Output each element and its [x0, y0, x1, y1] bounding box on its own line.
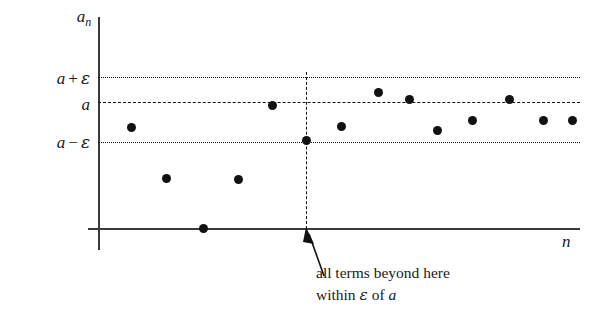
upper-bound-label-a: a: [57, 69, 66, 88]
annotation-caption-line2: within ε of a: [316, 284, 450, 306]
annotation-caption-of: of: [368, 286, 389, 303]
threshold-line: [306, 72, 307, 229]
data-point: [433, 126, 442, 135]
data-point: [302, 136, 311, 145]
lower-bound-label-op: −: [65, 133, 81, 152]
upper-bound-label-op: +: [65, 69, 81, 88]
annotation-caption-a: a: [389, 286, 397, 303]
data-point: [468, 116, 477, 125]
upper-bound-label-epsilon: ε: [81, 68, 90, 88]
data-point: [127, 123, 136, 132]
annotation-caption: all terms beyond here within ε of a: [316, 262, 450, 306]
y-axis-label-subscript: n: [85, 15, 91, 29]
y-axis-label: an: [77, 8, 92, 27]
figure-canvas: an a+ε a a−ε n all terms beyond here wit…: [0, 0, 611, 325]
limit-label-a: a: [82, 95, 91, 114]
y-axis-label-base: a: [77, 7, 86, 26]
lower-bound-label-a: a: [57, 133, 66, 152]
data-point: [374, 88, 383, 97]
data-point: [568, 116, 577, 125]
data-point: [234, 175, 243, 184]
data-point: [268, 101, 277, 110]
x-axis-label: n: [562, 233, 571, 250]
data-point: [405, 95, 414, 104]
y-axis: [98, 17, 100, 250]
limit-label: a: [82, 96, 91, 113]
upper-bound-line: [98, 77, 580, 78]
data-point: [505, 95, 514, 104]
lower-bound-label: a−ε: [57, 134, 90, 151]
x-axis-label-text: n: [562, 232, 571, 251]
upper-bound-label: a+ε: [57, 70, 90, 87]
lower-bound-line: [98, 142, 580, 143]
data-point: [162, 174, 171, 183]
annotation-caption-line1: all terms beyond here: [316, 262, 450, 284]
annotation-caption-within: within: [316, 286, 360, 303]
data-point: [199, 224, 208, 233]
lower-bound-label-epsilon: ε: [81, 132, 90, 152]
data-point: [337, 122, 346, 131]
annotation-caption-epsilon: ε: [360, 286, 368, 304]
data-point: [539, 116, 548, 125]
